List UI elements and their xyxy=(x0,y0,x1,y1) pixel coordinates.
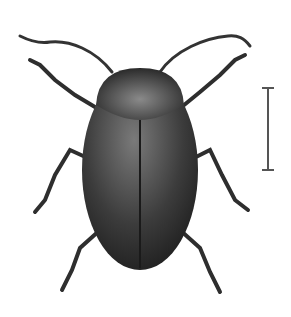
antennae xyxy=(20,36,250,72)
scale-bar xyxy=(262,88,274,170)
beetle-illustration xyxy=(0,0,291,317)
pronotum xyxy=(96,68,184,120)
